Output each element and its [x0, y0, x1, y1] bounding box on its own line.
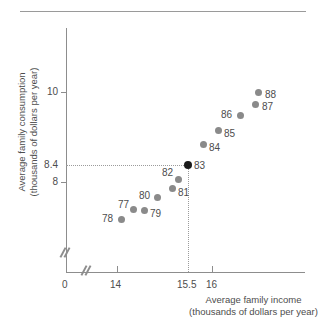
data-point-label-83: 83: [194, 161, 205, 171]
y-tick-mark-8: [61, 182, 67, 183]
data-point-label-88: 88: [265, 90, 276, 100]
data-point-83-highlighted: [184, 161, 192, 169]
data-point-82: [175, 176, 182, 183]
data-point-81: [169, 185, 176, 192]
data-point-label-80: 80: [139, 191, 150, 201]
data-point-label-78: 78: [102, 214, 113, 224]
x-axis-title-line1: Average family income: [186, 294, 321, 306]
data-point-87: [252, 101, 259, 108]
y-axis-title-line1: Average family consumption: [16, 62, 28, 202]
data-point-label-82: 82: [162, 168, 173, 178]
data-point-label-79: 79: [150, 209, 161, 219]
scatter-plot-figure: 10 8.4 8 0 14 15.5 16 78 77 79 80 81 82 …: [0, 0, 321, 328]
x-tick-label-0: 0: [62, 280, 68, 290]
top-divider-rule: [20, 11, 306, 12]
x-tick-label-14: 14: [110, 280, 121, 290]
x-tick-mark-16: [212, 266, 213, 272]
x-axis-title-line2: (thousands of dollars per year): [186, 306, 321, 318]
x-tick-mark-14: [117, 266, 118, 272]
data-point-label-77: 77: [118, 200, 129, 210]
data-point-79: [141, 207, 148, 214]
x-axis-line: [66, 272, 305, 273]
x-tick-label-15-5: 15.5: [177, 280, 196, 290]
data-point-85: [215, 127, 222, 134]
y-axis-line: [66, 28, 67, 273]
data-point-77: [130, 206, 137, 213]
data-point-label-85: 85: [224, 129, 235, 139]
data-point-84: [200, 141, 207, 148]
data-point-label-84: 84: [209, 143, 220, 153]
y-axis-title: Average family consumption (thousands of…: [16, 62, 40, 202]
data-point-label-86: 86: [221, 110, 232, 120]
data-point-86: [237, 112, 244, 119]
data-point-label-81: 81: [178, 188, 189, 198]
data-point-78: [118, 216, 125, 223]
data-point-label-87: 87: [262, 102, 273, 112]
vertical-guide-line-15-5: [188, 165, 189, 272]
data-point-88: [255, 89, 262, 96]
x-tick-label-16: 16: [206, 280, 217, 290]
data-point-80: [154, 194, 161, 201]
y-axis-title-line2: (thousands of dollars per year): [28, 62, 40, 202]
horizontal-guide-line-8-4: [66, 165, 188, 166]
x-axis-title: Average family income (thousands of doll…: [186, 294, 321, 318]
y-tick-mark-10: [61, 92, 67, 93]
